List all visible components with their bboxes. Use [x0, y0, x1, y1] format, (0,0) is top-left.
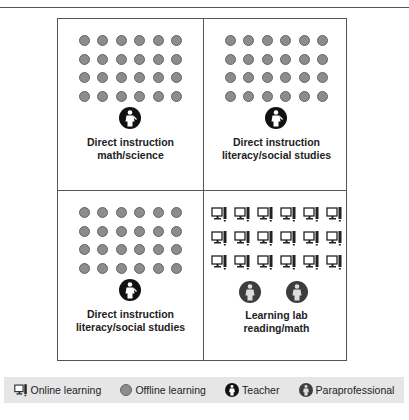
offline-learning-dot: [317, 91, 328, 102]
offline-learning-dot: [171, 54, 182, 65]
offline-learning-dot: [153, 91, 164, 102]
computer-icon: [326, 230, 343, 246]
offline-learning-dot: [171, 244, 182, 255]
offline-learning-dot: [171, 226, 182, 237]
computer-icon: [211, 206, 228, 222]
label-line-1: Direct instruction: [58, 308, 203, 321]
offline-learning-dot: [79, 226, 90, 237]
legend-label: Offline learning: [135, 384, 205, 396]
paraprofessional-icon: [239, 281, 261, 303]
offline-learning-dot: [134, 35, 145, 46]
label-line-1: Learning lab: [204, 309, 349, 322]
offline-learning-dot: [317, 35, 328, 46]
quadrant-label: Learning lab reading/math: [204, 309, 349, 335]
computer-icon: [326, 206, 343, 222]
offline-learning-dot: [153, 35, 164, 46]
offline-learning-dot: [79, 35, 90, 46]
teacher-icon: [119, 107, 141, 129]
offline-learning-dot: [299, 35, 310, 46]
student-grid: [204, 35, 349, 102]
offline-learning-dot: [262, 35, 273, 46]
computer-icon: [257, 230, 274, 246]
offline-learning-dot: [134, 244, 145, 255]
offline-learning-dot: [171, 91, 182, 102]
teacher-icon: [119, 279, 141, 301]
quadrant-top-left: Direct instruction math/science: [58, 19, 203, 190]
paraprofessional-icon: [299, 383, 313, 397]
quadrant-label: Direct instruction literacy/social studi…: [58, 308, 203, 334]
offline-learning-dot: [116, 91, 127, 102]
legend-item-paraprofessional: Paraprofessional: [299, 383, 395, 397]
offline-learning-dot: [79, 54, 90, 65]
offline-learning-dot: [317, 54, 328, 65]
offline-learning-dot: [262, 54, 273, 65]
offline-learning-dot: [280, 35, 291, 46]
computer-icon: [257, 206, 274, 222]
teacher-icon: [265, 107, 287, 129]
offline-learning-dot: [79, 244, 90, 255]
quadrant-bottom-right: Learning lab reading/math: [204, 191, 349, 362]
label-line-1: Direct instruction: [58, 136, 203, 149]
offline-learning-dot: [79, 91, 90, 102]
student-grid: [58, 35, 203, 102]
offline-learning-dot: [97, 35, 108, 46]
offline-learning-dot: [97, 54, 108, 65]
offline-learning-dot: [243, 72, 254, 83]
offline-learning-dot: [97, 244, 108, 255]
computer-icon: [14, 383, 28, 397]
offline-learning-dot: [171, 35, 182, 46]
offline-learning-dot: [280, 72, 291, 83]
offline-learning-dot: [317, 72, 328, 83]
computer-icon: [234, 230, 251, 246]
computer-icon: [234, 254, 251, 270]
offline-learning-dot: [134, 54, 145, 65]
offline-learning-dot: [225, 35, 236, 46]
legend-item-teacher: Teacher: [225, 383, 279, 397]
computer-icon: [280, 230, 297, 246]
offline-learning-dot: [280, 54, 291, 65]
offline-learning-dot: [262, 91, 273, 102]
offline-learning-dot: [225, 91, 236, 102]
offline-learning-dot: [153, 263, 164, 274]
offline-learning-dot: [97, 263, 108, 274]
offline-learning-dot: [171, 72, 182, 83]
offline-learning-dot: [171, 263, 182, 274]
offline-learning-dot: [171, 207, 182, 218]
offline-learning-dot: [134, 226, 145, 237]
legend: Online learning Offline learning Teacher…: [4, 377, 404, 403]
offline-learning-dot: [116, 207, 127, 218]
legend-label: Teacher: [242, 384, 279, 396]
offline-learning-dot: [153, 226, 164, 237]
computer-icon: [303, 206, 320, 222]
quadrant-label: Direct instruction literacy/social studi…: [204, 136, 349, 162]
offline-learning-dot: [153, 72, 164, 83]
offline-learning-dot: [97, 226, 108, 237]
offline-learning-dot: [243, 54, 254, 65]
offline-learning-dot: [243, 91, 254, 102]
legend-label: Online learning: [31, 384, 102, 396]
computer-icon: [257, 254, 274, 270]
student-grid: [58, 207, 203, 274]
offline-learning-dot: [299, 72, 310, 83]
computer-icon: [303, 254, 320, 270]
label-line-1: Direct instruction: [204, 136, 349, 149]
computer-icon: [280, 254, 297, 270]
computer-icon: [303, 230, 320, 246]
offline-learning-dot: [280, 91, 291, 102]
computer-icon: [280, 206, 297, 222]
label-line-2: literacy/social studies: [58, 321, 203, 334]
label-line-2: math/science: [58, 149, 203, 162]
teacher-icon: [225, 383, 239, 397]
offline-learning-dot: [225, 54, 236, 65]
offline-learning-dot: [97, 72, 108, 83]
quadrant-bottom-left: Direct instruction literacy/social studi…: [58, 191, 203, 362]
offline-learning-dot: [225, 72, 236, 83]
offline-learning-dot: [134, 91, 145, 102]
offline-learning-dot: [153, 54, 164, 65]
offline-learning-dot: [134, 72, 145, 83]
offline-learning-dot: [116, 263, 127, 274]
label-line-2: literacy/social studies: [204, 149, 349, 162]
offline-learning-dot: [153, 244, 164, 255]
legend-label: Paraprofessional: [316, 384, 395, 396]
computer-icon: [326, 254, 343, 270]
